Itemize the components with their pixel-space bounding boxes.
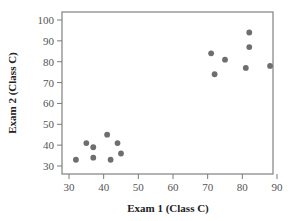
data-point [73, 157, 79, 163]
data-point [118, 151, 124, 157]
data-point [208, 50, 214, 56]
x-tick-label: 80 [237, 181, 249, 193]
data-point [212, 71, 218, 77]
data-point [267, 63, 273, 69]
data-point [83, 140, 89, 146]
y-tick-label: 30 [43, 160, 55, 172]
x-tick-label: 50 [133, 181, 145, 193]
y-tick-label: 60 [43, 97, 55, 109]
x-tick-label: 70 [202, 181, 214, 193]
data-point [246, 44, 252, 50]
y-axis: 30405060708090100 [38, 14, 63, 172]
y-tick-label: 50 [43, 118, 55, 130]
data-point [246, 30, 252, 36]
data-point [243, 65, 249, 71]
x-tick-label: 40 [98, 181, 110, 193]
y-tick-label: 90 [43, 35, 55, 47]
y-tick-label: 70 [43, 77, 55, 89]
y-tick-label: 80 [43, 56, 55, 68]
data-point [222, 57, 228, 63]
x-axis: 30405060708090 [64, 174, 284, 193]
x-tick-label: 90 [272, 181, 284, 193]
y-tick-label: 100 [38, 14, 55, 26]
data-point [108, 157, 114, 163]
y-axis-title: Exam 2 (Class C) [6, 52, 19, 134]
data-point [90, 144, 96, 150]
x-tick-label: 60 [168, 181, 180, 193]
data-point [104, 132, 110, 138]
x-axis-title: Exam 1 (Class C) [127, 202, 209, 215]
data-point [115, 140, 121, 146]
data-point [90, 155, 96, 161]
y-tick-label: 40 [43, 139, 55, 151]
scatter-chart: 30405060708090100 30405060708090 Exam 1 … [0, 0, 300, 221]
data-points [73, 30, 273, 163]
x-tick-label: 30 [64, 181, 76, 193]
